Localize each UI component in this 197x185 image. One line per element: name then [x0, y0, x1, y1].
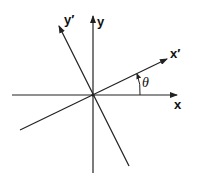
y-axis-label: y: [97, 14, 105, 29]
angle-arc: [137, 74, 140, 95]
angle-theta-label: θ: [142, 75, 149, 90]
rotated-axes-diagram: x y x′ y′ θ: [0, 0, 197, 185]
x-prime-axis-label: x′: [170, 46, 180, 61]
origin-point: [91, 93, 94, 96]
y-prime-axis-label: y′: [64, 12, 74, 27]
x-axis-label: x: [174, 97, 182, 112]
